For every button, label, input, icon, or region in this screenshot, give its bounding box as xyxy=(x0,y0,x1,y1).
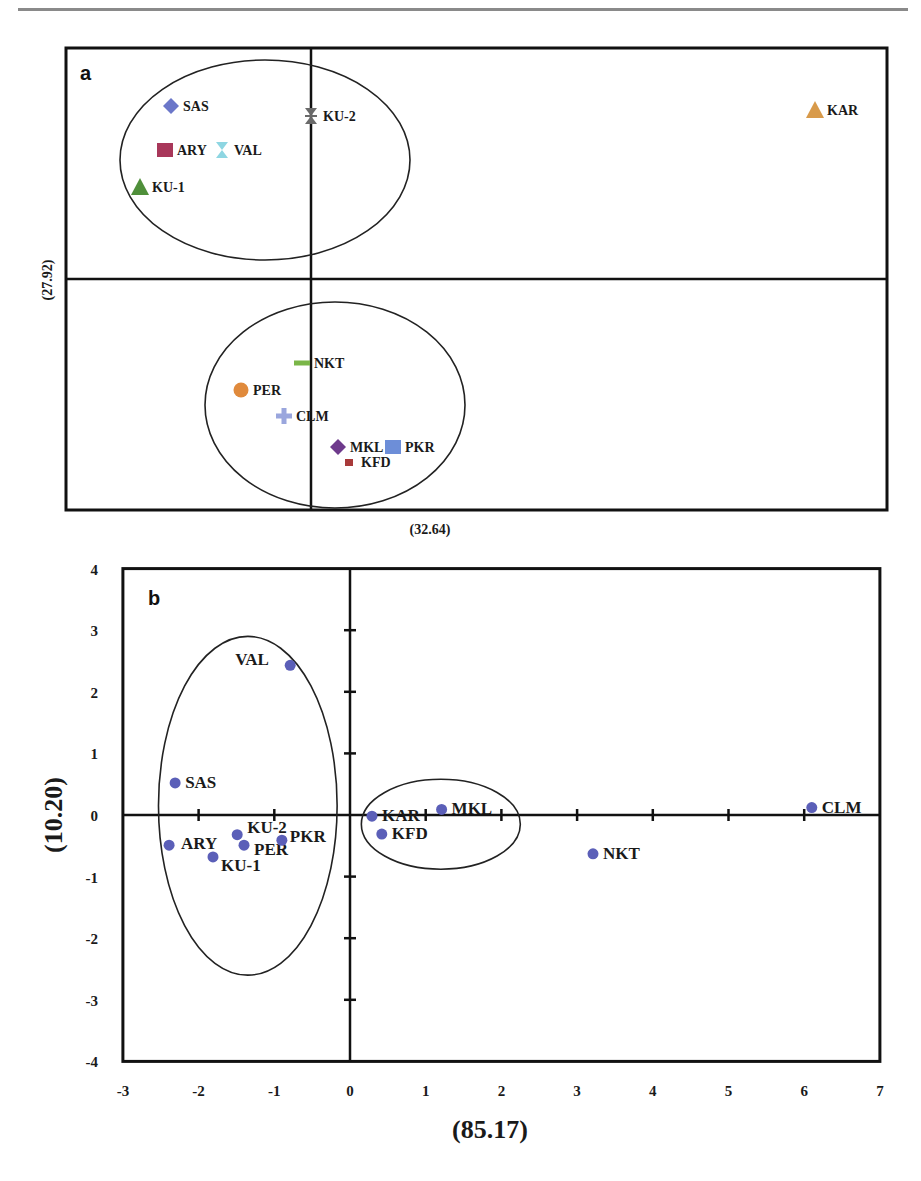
y-tick-label: -2 xyxy=(86,931,99,947)
point-dot-icon xyxy=(806,802,817,813)
point-dot-icon xyxy=(366,811,377,822)
y-tick-label: -4 xyxy=(86,1054,99,1070)
point-label: NKT xyxy=(603,844,641,863)
x-tick-label: -1 xyxy=(268,1083,281,1099)
point-label: KAR xyxy=(827,103,859,118)
cluster-ellipse-b-1 xyxy=(158,636,337,975)
marker-hourglass-icon xyxy=(216,142,228,158)
data-point-nkt: NKT xyxy=(294,356,345,371)
data-point-ku-1: KU-1 xyxy=(131,178,185,195)
point-label: CLM xyxy=(296,409,329,424)
cluster-ellipse-a-2 xyxy=(205,302,465,508)
y-tick-label: -1 xyxy=(86,870,99,886)
point-label: CLM xyxy=(822,798,862,817)
marker-circle-icon xyxy=(234,383,249,398)
data-point-val: VAL xyxy=(216,142,262,158)
point-label: KU-1 xyxy=(221,856,261,875)
marker-dash-icon xyxy=(294,361,310,366)
y-tick-label: -3 xyxy=(86,993,99,1009)
point-dot-icon xyxy=(436,804,447,815)
x-tick-label: 5 xyxy=(725,1083,733,1099)
marker-diamond-icon xyxy=(163,98,179,114)
panel-b-x-label: (85.17) xyxy=(452,1115,528,1144)
panel-b: -3-2-10123456743210-1-2-3-4bVALSASARYKU-… xyxy=(39,562,884,1144)
x-tick-label: 0 xyxy=(346,1083,354,1099)
point-label: KU-1 xyxy=(152,180,185,195)
point-label: PKR xyxy=(290,827,327,846)
marker-cross-icon xyxy=(282,408,287,424)
point-label: MKL xyxy=(452,799,493,818)
point-dot-icon xyxy=(276,835,287,846)
point-label: KFD xyxy=(361,455,391,470)
point-label: SAS xyxy=(183,99,209,114)
point-dot-icon xyxy=(239,840,250,851)
point-dot-icon xyxy=(164,840,175,851)
data-point-nkt: NKT xyxy=(587,844,640,863)
panel-b-y-label: (10.20) xyxy=(39,777,68,853)
point-label: SAS xyxy=(185,773,216,792)
point-label: PKR xyxy=(405,440,435,455)
point-label: ARY xyxy=(181,834,217,853)
point-dot-icon xyxy=(207,851,218,862)
point-label: VAL xyxy=(235,650,269,669)
data-point-per: PER xyxy=(234,383,282,399)
x-tick-label: 6 xyxy=(800,1083,808,1099)
cluster-ellipse-a-1 xyxy=(120,60,410,260)
data-point-ku-2: KU-2 xyxy=(305,108,356,124)
point-label: KU-2 xyxy=(323,109,356,124)
marker-small-square-icon xyxy=(345,459,353,466)
panel-a: aSASKU-2ARYVALKU-1KARNKTPERCLMMKLPKRKFD(… xyxy=(40,48,887,538)
data-point-kfd: KFD xyxy=(345,455,391,470)
pca-figure: aSASKU-2ARYVALKU-1KARNKTPERCLMMKLPKRKFD(… xyxy=(0,0,921,1181)
point-label: PER xyxy=(253,383,282,398)
y-tick-label: 2 xyxy=(91,685,99,701)
panel-a-letter: a xyxy=(80,62,92,84)
point-label: VAL xyxy=(234,143,262,158)
data-point-kar: KAR xyxy=(806,101,859,118)
data-point-sas: SAS xyxy=(170,773,217,792)
marker-triangle-icon xyxy=(806,101,824,118)
marker-triangle-icon xyxy=(131,178,149,195)
data-point-sas: SAS xyxy=(163,98,209,114)
point-dot-icon xyxy=(376,829,387,840)
y-tick-label: 4 xyxy=(91,562,99,578)
point-label: MKL xyxy=(350,440,383,455)
point-label: NKT xyxy=(314,356,345,371)
data-point-ku-1: KU-1 xyxy=(207,851,260,875)
data-point-pkr: PKR xyxy=(385,440,435,455)
data-point-clm: CLM xyxy=(276,408,329,424)
x-tick-label: 3 xyxy=(573,1083,581,1099)
point-label: KFD xyxy=(392,824,428,843)
data-point-ary: ARY xyxy=(157,143,207,158)
data-point-kfd: KFD xyxy=(376,824,427,843)
x-tick-label: -3 xyxy=(117,1083,130,1099)
y-tick-label: 0 xyxy=(91,808,99,824)
x-tick-label: -2 xyxy=(192,1083,205,1099)
point-label: ARY xyxy=(177,143,207,158)
data-point-ary: ARY xyxy=(164,834,218,853)
marker-diamond-icon xyxy=(330,439,346,455)
data-point-mkl: MKL xyxy=(330,439,383,455)
point-dot-icon xyxy=(232,829,243,840)
x-tick-label: 7 xyxy=(876,1083,884,1099)
x-tick-label: 2 xyxy=(498,1083,506,1099)
panel-a-x-label: (32.64) xyxy=(410,522,451,538)
point-dot-icon xyxy=(170,777,181,788)
point-label: KAR xyxy=(382,806,421,825)
data-point-kar: KAR xyxy=(366,806,420,825)
point-dot-icon xyxy=(285,660,296,671)
panel-a-y-label: (27.92) xyxy=(40,259,56,300)
y-tick-label: 3 xyxy=(91,623,99,639)
y-tick-label: 1 xyxy=(91,746,99,762)
x-tick-label: 4 xyxy=(649,1083,657,1099)
point-label: KU-2 xyxy=(247,818,287,837)
point-dot-icon xyxy=(587,848,598,859)
marker-square-icon xyxy=(385,440,401,454)
marker-square-icon xyxy=(157,143,173,157)
panel-b-letter: b xyxy=(148,587,160,609)
x-tick-label: 1 xyxy=(422,1083,430,1099)
